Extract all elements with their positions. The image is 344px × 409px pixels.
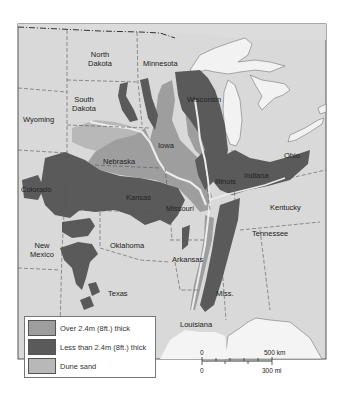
legend-label: Less than 2.4m (8ft.) thick	[60, 343, 146, 352]
label-oklahoma: Oklahoma	[110, 241, 145, 250]
label-texas: Texas	[108, 289, 128, 298]
scale-km-label: 500 km	[264, 349, 285, 356]
label-wyoming: Wyoming	[23, 115, 54, 124]
label-new-mexico: New	[34, 241, 50, 250]
scale-mi-zero: 0	[200, 367, 204, 374]
label-south-dakota-2: Dakota	[72, 104, 97, 113]
label-kansas: Kansas	[126, 193, 151, 202]
label-missouri: Missouri	[166, 204, 194, 213]
label-south-dakota: South	[74, 95, 94, 104]
label-miss: Miss.	[216, 289, 234, 298]
swatch-thin-loess	[28, 339, 56, 355]
scale-km-zero: 0	[200, 349, 204, 356]
swatch-thick-loess	[28, 320, 56, 336]
legend-label: Dune sand	[60, 362, 96, 371]
label-indiana: Indiana	[244, 171, 269, 180]
label-new-mexico-2: Mexico	[30, 250, 54, 259]
label-tennessee: Tennessee	[252, 229, 288, 238]
legend: Over 2.4m (8ft.) thick Less than 2.4m (8…	[24, 316, 156, 378]
legend-label: Over 2.4m (8ft.) thick	[60, 324, 130, 333]
label-wisconsin: Wisconsin	[187, 95, 221, 104]
label-iowa: Iowa	[158, 141, 175, 150]
legend-item-thick: Over 2.4m (8ft.) thick	[28, 320, 130, 336]
scale-mi-label: 300 mi	[262, 367, 282, 374]
legend-item-dune: Dune sand	[28, 358, 96, 374]
swatch-dune-sand	[28, 358, 56, 374]
label-north-dakota: North	[91, 50, 109, 59]
label-louisiana: Louisiana	[180, 320, 213, 329]
label-north-dakota-2: Dakota	[88, 59, 113, 68]
label-ohio: Ohio	[284, 151, 300, 160]
label-kentucky: Kentucky	[270, 203, 301, 212]
label-colorado: Colorado	[21, 185, 51, 194]
label-minnesota: Minnesota	[143, 59, 178, 68]
label-illinois: Illinois	[215, 177, 236, 186]
legend-item-thin: Less than 2.4m (8ft.) thick	[28, 339, 146, 355]
label-arkansas: Arkansas	[172, 255, 204, 264]
label-nebraska: Nebraska	[103, 157, 136, 166]
